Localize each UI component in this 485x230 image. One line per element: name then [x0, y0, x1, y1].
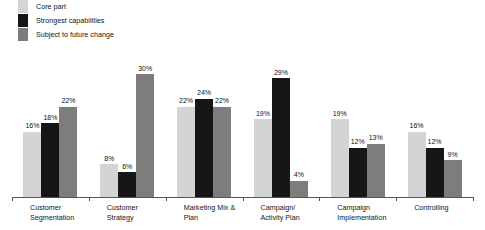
- bar-value-label: 18%: [43, 114, 57, 122]
- category-label-line: Strategy: [107, 213, 166, 223]
- axis-tick: [12, 197, 13, 201]
- bar-rect: [349, 148, 367, 197]
- bar-value-label: 29%: [274, 69, 288, 77]
- legend-swatch-subject-to-future-change: [18, 28, 28, 41]
- bar-value-label: 16%: [25, 122, 39, 130]
- bar-rect: [177, 107, 195, 197]
- chart-legend: Core part Strongest capabilities Subject…: [18, 0, 238, 41]
- category-label-line: Customer: [30, 203, 89, 213]
- bar-item: 16%: [408, 56, 426, 197]
- bar-rect: [367, 144, 385, 197]
- bar-rect: [290, 181, 308, 197]
- bar-item: 8%: [100, 56, 118, 197]
- category-label-line: Customer: [107, 203, 166, 213]
- bar-value-label: 12%: [351, 138, 365, 146]
- legend-item-core-part: Core part: [18, 0, 238, 13]
- bar-rect: [41, 123, 59, 197]
- bar-rect: [331, 119, 349, 197]
- category-label-line: Campaign: [337, 203, 396, 213]
- category-label-line: Campaign/: [260, 203, 319, 213]
- category-label: Campaign/Activity Plan: [242, 203, 319, 222]
- legend-swatch-core-part: [18, 0, 28, 13]
- bar-rect: [118, 172, 136, 197]
- legend-swatch-strongest-capabilities: [18, 14, 28, 27]
- bar-value-label: 19%: [256, 110, 270, 118]
- bar-rect: [408, 132, 426, 198]
- bar-item: 6%: [118, 56, 136, 197]
- bar-group-bars: 8%6%30%: [100, 56, 154, 197]
- bar-item: 29%: [272, 56, 290, 197]
- bar-value-label: 9%: [447, 151, 457, 159]
- category-label-line: Implementation: [337, 213, 396, 223]
- category-label: Controlling: [396, 203, 473, 222]
- category-label: CampaignImplementation: [319, 203, 396, 222]
- bar-item: 22%: [213, 56, 231, 197]
- bar-value-label: 12%: [428, 138, 442, 146]
- bar-chart: Core part Strongest capabilities Subject…: [0, 0, 485, 230]
- category-label: CustomerSegmentation: [12, 203, 89, 222]
- bar-item: 9%: [444, 56, 462, 197]
- legend-label-core-part: Core part: [36, 0, 66, 13]
- category-label-line: Activity Plan: [260, 213, 319, 223]
- bar-value-label: 6%: [122, 163, 132, 171]
- bar-group: 22%24%22%: [166, 56, 243, 197]
- axis-tick: [473, 197, 474, 201]
- bar-groups: 16%18%22%8%6%30%22%24%22%19%29%4%19%12%1…: [12, 56, 473, 197]
- bar-rect: [23, 132, 41, 198]
- bar-value-label: 16%: [410, 122, 424, 130]
- bar-rect: [444, 160, 462, 197]
- bar-item: 12%: [426, 56, 444, 197]
- bar-group: 16%12%9%: [396, 56, 473, 197]
- bar-rect: [136, 74, 154, 197]
- legend-label-strongest-capabilities: Strongest capabilities: [36, 14, 104, 27]
- bar-value-label: 22%: [61, 97, 75, 105]
- bar-value-label: 4%: [294, 171, 304, 179]
- bar-group: 19%29%4%: [242, 56, 319, 197]
- bar-rect: [59, 107, 77, 197]
- bar-item: 12%: [349, 56, 367, 197]
- bar-rect: [426, 148, 444, 197]
- bar-item: 16%: [23, 56, 41, 197]
- axis-tick: [319, 197, 320, 201]
- bar-group-bars: 22%24%22%: [177, 56, 231, 197]
- category-label-line: Plan: [184, 213, 243, 223]
- bar-rect: [254, 119, 272, 197]
- plot-area: 16%18%22%8%6%30%22%24%22%19%29%4%19%12%1…: [12, 56, 473, 197]
- bar-item: 22%: [59, 56, 77, 197]
- category-label-line: Marketing Mix &: [184, 203, 243, 213]
- bar-group: 8%6%30%: [89, 56, 166, 197]
- bar-group-bars: 19%12%13%: [331, 56, 385, 197]
- bar-value-label: 22%: [179, 97, 193, 105]
- bar-item: 19%: [331, 56, 349, 197]
- bar-value-label: 8%: [104, 155, 114, 163]
- bar-item: 30%: [136, 56, 154, 197]
- bar-value-label: 13%: [369, 134, 383, 142]
- category-label-line: Controlling: [414, 203, 473, 213]
- bar-value-label: 22%: [215, 97, 229, 105]
- bar-group-bars: 16%12%9%: [408, 56, 462, 197]
- bar-group: 16%18%22%: [12, 56, 89, 197]
- bar-item: 24%: [195, 56, 213, 197]
- bar-group-bars: 16%18%22%: [23, 56, 77, 197]
- axis-tick: [166, 197, 167, 201]
- legend-item-strongest-capabilities: Strongest capabilities: [18, 13, 238, 27]
- category-label-line: Segmentation: [30, 213, 89, 223]
- bar-rect: [213, 107, 231, 197]
- bar-value-label: 30%: [138, 65, 152, 73]
- legend-label-subject-to-future-change: Subject to future change: [36, 28, 114, 41]
- bar-rect: [195, 99, 213, 197]
- bar-group: 19%12%13%: [319, 56, 396, 197]
- category-label: Marketing Mix &Plan: [166, 203, 243, 222]
- axis-tick: [243, 197, 244, 201]
- axis-tick: [89, 197, 90, 201]
- bar-value-label: 19%: [333, 110, 347, 118]
- legend-item-subject-to-future-change: Subject to future change: [18, 27, 238, 41]
- bar-item: 13%: [367, 56, 385, 197]
- bar-item: 19%: [254, 56, 272, 197]
- bar-group-bars: 19%29%4%: [254, 56, 308, 197]
- bar-rect: [272, 78, 290, 197]
- category-label: CustomerStrategy: [89, 203, 166, 222]
- bar-value-label: 24%: [197, 89, 211, 97]
- bar-item: 22%: [177, 56, 195, 197]
- bar-rect: [100, 164, 118, 197]
